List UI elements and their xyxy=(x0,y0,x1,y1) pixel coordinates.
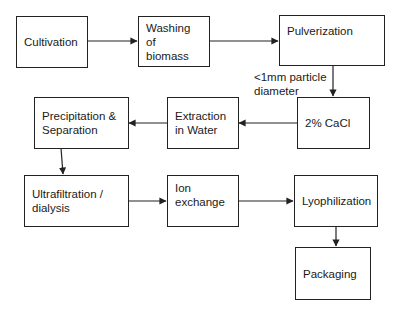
step-label: Precipitation & Separation xyxy=(42,109,116,137)
step-label: Washing of biomass xyxy=(146,21,202,63)
step-label: Pulverization xyxy=(287,24,353,38)
step-label: Extraction in Water xyxy=(175,109,226,137)
step-lyophilization: Lyophilization xyxy=(294,175,378,227)
step-label: Ion exchange xyxy=(175,181,225,209)
step-label: 2% CaCl xyxy=(305,116,350,130)
step-extraction-in-water: Extraction in Water xyxy=(167,97,239,149)
step-label: Packaging xyxy=(303,267,357,281)
particle-size-annotation: <1mm particle diameter xyxy=(254,70,327,98)
step-2pct-cacl: 2% CaCl xyxy=(297,97,370,149)
step-label: Ultrafiltration / dialysis xyxy=(32,187,103,215)
step-precipitation-separation: Precipitation & Separation xyxy=(34,97,129,149)
step-cultivation: Cultivation xyxy=(16,16,88,68)
step-washing-of-biomass: Washing of biomass xyxy=(138,16,210,67)
step-packaging: Packaging xyxy=(295,247,371,300)
step-pulverization: Pulverization xyxy=(279,15,385,66)
step-label: Cultivation xyxy=(24,35,78,49)
step-ion-exchange: Ion exchange xyxy=(167,175,239,227)
step-ultrafiltration-dialysis: Ultrafiltration / dialysis xyxy=(24,175,129,227)
step-label: Lyophilization xyxy=(302,194,371,208)
